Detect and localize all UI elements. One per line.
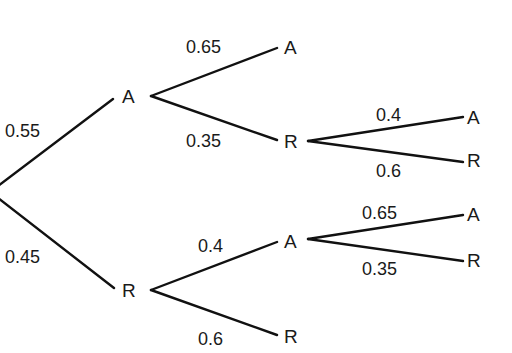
tree-svg: 0.55 0.45 A R 0.65 0.35 A R 0.4 0.6 A R … [0,0,512,353]
prob-label-R-R: 0.6 [198,329,223,349]
prob-label-A-A: 0.65 [186,37,221,57]
node-R: R [122,280,136,301]
node-AR-A: A [467,107,480,128]
prob-label-A-R: 0.35 [186,131,221,151]
node-AR-R: R [467,150,481,171]
prob-label-AR-A: 0.4 [376,105,401,125]
edge-root-R [0,198,114,288]
node-A-R: R [284,131,298,152]
edge-root-A [0,99,113,186]
prob-label-RA-R: 0.35 [362,259,397,279]
node-A-A: A [284,37,297,58]
node-A: A [122,86,135,107]
node-R-A: A [284,231,297,252]
node-RA-A: A [467,204,480,225]
prob-label-root-R: 0.45 [5,247,40,267]
prob-label-RA-A: 0.65 [362,203,397,223]
prob-label-R-A: 0.4 [198,236,223,256]
probability-tree-diagram: 0.55 0.45 A R 0.65 0.35 A R 0.4 0.6 A R … [0,0,512,353]
node-RA-R: R [467,250,481,271]
prob-label-AR-R: 0.6 [376,161,401,181]
prob-label-root-A: 0.55 [5,121,40,141]
node-R-R: R [284,326,298,347]
edge-RA-R [308,239,463,261]
edge-AR-R [308,141,463,162]
